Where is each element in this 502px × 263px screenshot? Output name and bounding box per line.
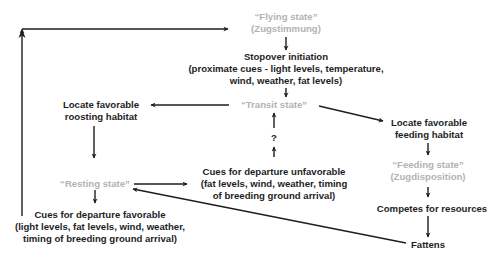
flying-state-sublabel: (Zugstimmung) [251, 23, 321, 35]
stopover-ecology-diagram: “Flying state” (Zugstimmung) Stopover in… [0, 0, 502, 263]
transit-state-node: “Transit state” [241, 99, 307, 111]
feeding-state-sublabel: (Zugdisposition) [390, 171, 465, 183]
transit-state-label: “Transit state” [241, 99, 307, 111]
cues-unfavorable-node: Cues for departure unfavorable (fat leve… [201, 166, 348, 202]
flying-state-node: “Flying state” (Zugstimmung) [251, 11, 321, 35]
locate-feeding-line2: feeding habitat [391, 129, 467, 141]
competes-node: Competes for resources [377, 203, 487, 215]
competes-label: Competes for resources [377, 203, 487, 215]
stopover-initiation-node: Stopover initiation (proximate cues - li… [188, 51, 383, 87]
cues-unfavorable-title: Cues for departure unfavorable [201, 166, 348, 178]
cues-unfavorable-line2: (fat levels, wind, weather, timing [201, 178, 348, 190]
cues-favorable-title: Cues for departure favorable [15, 209, 185, 221]
fattens-label: Fattens [411, 239, 445, 251]
cues-favorable-node: Cues for departure favorable (light leve… [15, 209, 185, 245]
cues-unfavorable-line3: of breeding ground arrival) [201, 190, 348, 202]
fattens-node: Fattens [411, 239, 445, 251]
feeding-state-label: “Feeding state” [390, 159, 465, 171]
locate-roosting-line2: roosting habitat [63, 111, 139, 123]
resting-state-node: “Resting state” [60, 178, 130, 190]
flying-state-label: “Flying state” [251, 11, 321, 23]
stopover-title: Stopover initiation [188, 51, 383, 63]
locate-roosting-line1: Locate favorable [63, 99, 139, 111]
stopover-cues-line1: (proximate cues - light levels, temperat… [188, 63, 383, 75]
stopover-cues-line2: wind, weather, fat levels) [188, 75, 383, 87]
cues-favorable-line2: (light levels, fat levels, wind, weather… [15, 221, 185, 233]
feeding-state-node: “Feeding state” (Zugdisposition) [390, 159, 465, 183]
locate-feeding-node: Locate favorable feeding habitat [391, 117, 467, 141]
locate-roosting-node: Locate favorable roosting habitat [63, 99, 139, 123]
edge-transit-to-feeding [319, 106, 383, 121]
cues-favorable-line3: timing of breeding ground arrival) [15, 233, 185, 245]
resting-state-label: “Resting state” [60, 178, 130, 190]
question-mark-label: ? [271, 132, 277, 144]
question-mark-text: ? [271, 132, 277, 144]
locate-feeding-line1: Locate favorable [391, 117, 467, 129]
